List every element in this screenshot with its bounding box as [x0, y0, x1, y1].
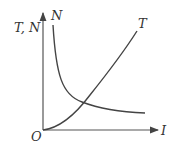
- n-curve-label: N: [50, 8, 63, 23]
- n-curve: [53, 25, 145, 113]
- torque-speed-diagram: T, N N T O I: [0, 0, 176, 148]
- origin-label: O: [31, 129, 42, 144]
- x-axis-label: I: [160, 123, 167, 138]
- y-axis-label: T, N: [14, 20, 41, 35]
- t-curve: [43, 31, 137, 130]
- t-curve-label: T: [138, 16, 148, 31]
